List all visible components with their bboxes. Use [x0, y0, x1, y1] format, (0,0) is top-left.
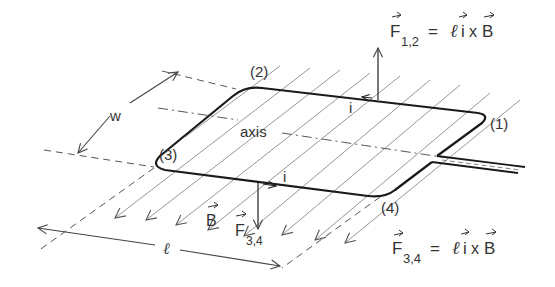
- svg-text:B: B: [482, 22, 493, 41]
- svg-text:F: F: [235, 222, 245, 239]
- force-3-4-label: F 3,4: [235, 211, 263, 248]
- current-loop-diagram: w ℓ axis i i (2) (1) (3) (4) B F 3,4: [0, 0, 555, 287]
- svg-text:ℓ: ℓ: [450, 21, 458, 41]
- corner-label-2: (2): [250, 63, 268, 80]
- corner-label-1: (1): [490, 115, 508, 132]
- field-label: B: [206, 202, 218, 229]
- svg-text:3,4: 3,4: [403, 251, 421, 266]
- svg-text:ℓ: ℓ: [452, 238, 460, 258]
- current-loop: [156, 88, 485, 197]
- vector-arrow-icon: [236, 211, 246, 217]
- svg-text:=: =: [430, 239, 440, 258]
- svg-text:x: x: [471, 240, 479, 257]
- vector-arrow-icon: [459, 12, 467, 18]
- equation-force-3-4: F 3,4 = ℓ i x B: [392, 229, 496, 266]
- width-label: w: [109, 107, 121, 124]
- current-label-bottom: i: [283, 168, 286, 185]
- svg-text:x: x: [469, 23, 477, 40]
- svg-text:i: i: [461, 22, 465, 41]
- svg-text:i: i: [463, 239, 467, 258]
- dashed-guides: [38, 71, 380, 268]
- vector-arrow-icon: [486, 229, 496, 235]
- vector-arrow-icon: [208, 202, 218, 208]
- vector-arrow-icon: [394, 230, 403, 236]
- current-arrow-top: [362, 97, 372, 98]
- svg-text:B: B: [206, 212, 217, 229]
- length-label: ℓ: [163, 240, 170, 257]
- equation-force-1-2: F 1,2 = ℓ i x B: [390, 12, 494, 49]
- diagram-canvas: w ℓ axis i i (2) (1) (3) (4) B F 3,4: [0, 0, 555, 287]
- svg-text:B: B: [484, 239, 495, 258]
- vector-arrow-icon: [461, 229, 469, 235]
- svg-text:=: =: [428, 22, 438, 41]
- svg-text:F: F: [392, 239, 402, 258]
- vector-arrow-icon: [484, 12, 494, 18]
- corner-label-4: (4): [381, 199, 399, 216]
- vector-arrow-icon: [392, 12, 401, 18]
- corner-label-3: (3): [159, 146, 177, 163]
- svg-text:1,2: 1,2: [401, 34, 419, 49]
- width-dimension: [78, 72, 178, 153]
- svg-text:3,4: 3,4: [246, 234, 263, 248]
- current-label-top: i: [349, 99, 352, 116]
- axis-label: axis: [240, 123, 267, 140]
- rotation-axis: [158, 108, 448, 158]
- svg-text:F: F: [390, 22, 400, 41]
